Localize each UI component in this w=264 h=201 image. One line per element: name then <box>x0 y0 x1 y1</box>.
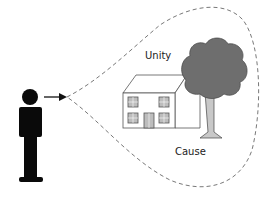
cause-label: Cause <box>175 146 206 157</box>
diagram: Unity Cause <box>0 0 264 201</box>
unity-label: Unity <box>145 50 171 61</box>
person-icon <box>18 89 43 182</box>
arrow-icon <box>44 93 67 101</box>
diagram-svg <box>0 0 264 201</box>
